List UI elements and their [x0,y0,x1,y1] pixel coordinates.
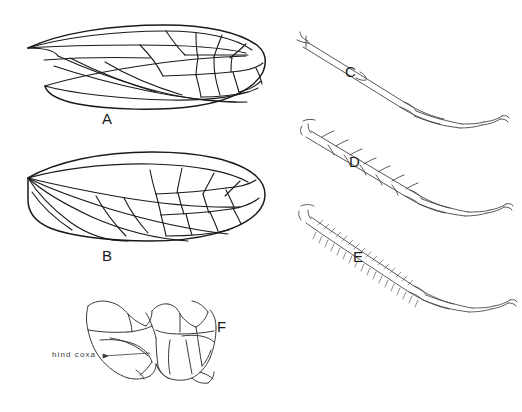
annotation-label-hind-coxa: hind coxa [52,350,96,359]
figure-label-f: F [217,318,227,335]
figure-label-c: C [345,63,356,80]
figure-label-e: E [353,248,364,265]
figure-label-d: D [349,153,360,170]
figure-label-a: A [102,110,113,127]
figure-label-b: B [102,247,113,264]
